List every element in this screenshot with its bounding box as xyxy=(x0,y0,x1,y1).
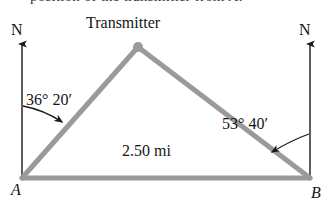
angle-arc-at-a xyxy=(23,106,62,122)
triangle-side-a-to-transmitter xyxy=(22,47,138,178)
vertex-label-a: A xyxy=(11,182,21,198)
north-label-left: N xyxy=(11,22,23,38)
transmitter-label: Transmitter xyxy=(86,15,160,31)
angle-label-at-b: 53° 40′ xyxy=(222,116,268,132)
figure-container: position of the transmitter from A. N N xyxy=(0,0,334,207)
angle-label-at-a: 36° 20′ xyxy=(26,92,72,108)
vertex-label-b: B xyxy=(311,185,321,201)
baseline-distance-label: 2.50 mi xyxy=(122,143,171,159)
transmitter-point-marker xyxy=(133,42,143,52)
north-label-right: N xyxy=(299,22,311,38)
angle-arc-at-b xyxy=(272,134,309,152)
